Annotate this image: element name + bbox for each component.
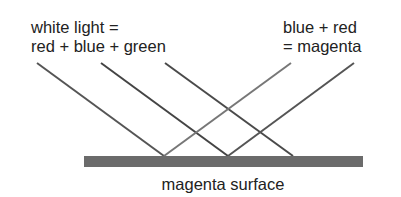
- reflected-light-label-line1: blue + red: [283, 18, 361, 37]
- blue-reflected-ray: [228, 63, 354, 156]
- white-light-label-line2: red + blue + green: [31, 37, 166, 56]
- blue-incident-ray: [101, 63, 228, 156]
- magenta-surface-bar: [84, 156, 363, 167]
- white-light-label: white light = red + blue + green: [31, 18, 166, 56]
- surface-label: magenta surface: [0, 175, 401, 194]
- reflected-light-label: blue + red = magenta: [283, 18, 361, 56]
- red-incident-ray: [37, 63, 164, 156]
- white-light-label-line1: white light =: [31, 18, 166, 37]
- reflected-light-label-line2: = magenta: [283, 37, 361, 56]
